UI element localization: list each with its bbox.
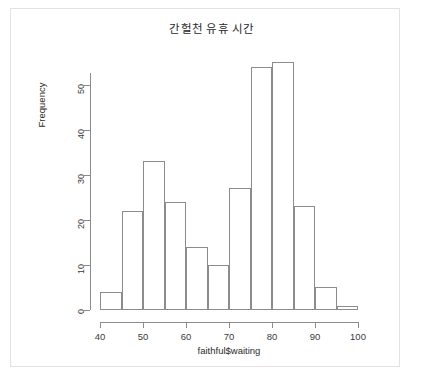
histogram-bar [143, 161, 165, 310]
histogram-bar [251, 67, 273, 310]
histogram-bar [337, 306, 359, 311]
x-axis-tick [229, 322, 230, 328]
histogram-figure: 간헐천 유휴 시간 Frequency faithful$waiting 405… [0, 0, 424, 381]
y-axis-label: Frequency [36, 60, 47, 150]
histogram-bar [294, 206, 316, 310]
x-axis-tick-label: 50 [123, 331, 163, 342]
y-axis-tick-label: 10 [76, 264, 86, 294]
x-axis-tick [315, 322, 316, 328]
y-axis-tick-label: 40 [76, 129, 86, 159]
histogram-bar [315, 287, 337, 310]
x-axis-tick-label: 100 [338, 331, 378, 342]
histogram-bar [229, 188, 251, 310]
x-axis-tick-label: 70 [209, 331, 249, 342]
y-axis-tick-label: 20 [76, 219, 86, 249]
y-axis-tick-label: 50 [76, 84, 86, 114]
x-axis-tick-label: 60 [166, 331, 206, 342]
x-axis-label: faithful$waiting [100, 345, 358, 356]
x-axis-tick [143, 322, 144, 328]
x-axis-tick [358, 322, 359, 328]
histogram-bar [100, 292, 122, 310]
y-axis-tick-label: 0 [76, 309, 86, 339]
y-axis-line [90, 73, 91, 310]
x-axis-tick-label: 80 [252, 331, 292, 342]
x-axis-tick-label: 90 [295, 331, 335, 342]
plot-area [100, 62, 358, 310]
x-axis-tick [186, 322, 187, 328]
x-axis-tick [100, 322, 101, 328]
histogram-bar [272, 62, 294, 310]
x-axis-tick-label: 40 [80, 331, 120, 342]
chart-title: 간헐천 유휴 시간 [0, 20, 424, 36]
histogram-bar [165, 202, 187, 310]
histogram-bar [208, 265, 230, 310]
histogram-bar [186, 247, 208, 310]
y-axis-tick-label: 30 [76, 174, 86, 204]
histogram-bar [122, 211, 144, 310]
x-axis-tick [272, 322, 273, 328]
